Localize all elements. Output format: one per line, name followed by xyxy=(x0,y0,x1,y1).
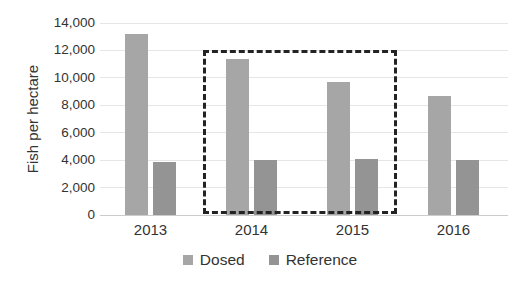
gridline xyxy=(100,23,508,24)
bar-dosed-2013 xyxy=(125,34,148,215)
y-tick-label: 2,000 xyxy=(8,180,95,196)
fish-per-hectare-bar-chart: Fish per hectare DosedReference 02,0004,… xyxy=(0,0,519,284)
x-axis-label-2016: 2016 xyxy=(414,221,494,238)
legend-item-reference: Reference xyxy=(269,251,358,269)
y-tick-label: 0 xyxy=(8,207,95,223)
y-tick-label: 6,000 xyxy=(8,125,95,141)
legend-label-dosed: Dosed xyxy=(200,251,245,269)
bar-dosed-2016 xyxy=(428,96,451,215)
y-tick-label: 8,000 xyxy=(8,97,95,113)
x-axis-label-2013: 2013 xyxy=(111,221,191,238)
legend-label-reference: Reference xyxy=(286,251,358,269)
bar-reference-2016 xyxy=(456,160,479,215)
plot-area xyxy=(100,23,508,215)
highlight-dashed-box xyxy=(203,50,397,214)
y-tick-label: 10,000 xyxy=(8,70,95,86)
x-axis-label-2014: 2014 xyxy=(212,221,292,238)
legend-item-dosed: Dosed xyxy=(183,251,245,269)
y-tick-label: 12,000 xyxy=(8,42,95,58)
legend-color-swatch-reference xyxy=(269,255,279,265)
bar-reference-2013 xyxy=(153,162,176,215)
legend-color-swatch-dosed xyxy=(183,255,193,265)
y-tick-label: 14,000 xyxy=(8,15,95,31)
y-tick-label: 4,000 xyxy=(8,152,95,168)
x-axis-label-2015: 2015 xyxy=(313,221,393,238)
legend: DosedReference xyxy=(21,251,519,269)
